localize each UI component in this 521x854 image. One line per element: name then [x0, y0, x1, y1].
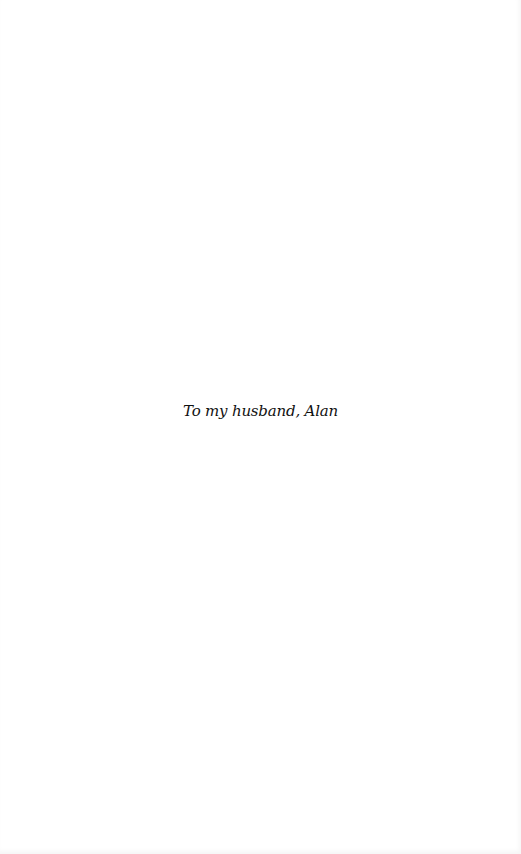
dedication-text: To my husband, Alan [0, 402, 521, 420]
book-page: To my husband, Alan [0, 0, 521, 854]
